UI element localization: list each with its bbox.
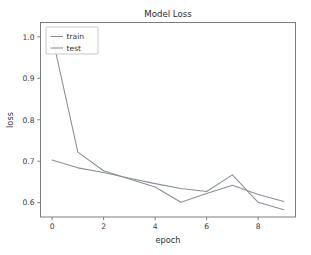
legend-label-train[interactable]: train	[67, 32, 85, 41]
matplotlib-figure: Model Loss loss epoch 02468 0.60.70.80.9…	[0, 0, 311, 255]
y-tick-label: 0.6	[22, 198, 34, 207]
x-tick-label: 2	[101, 222, 106, 231]
model-loss-line-chart: Model Loss loss epoch 02468 0.60.70.80.9…	[0, 0, 311, 255]
y-tick-label: 0.9	[22, 74, 34, 83]
y-tick-label: 1.0	[22, 33, 34, 42]
x-tick-label: 4	[153, 222, 158, 231]
x-axis-label: epoch	[156, 235, 181, 245]
x-tick-label: 0	[50, 222, 55, 231]
legend-label-test[interactable]: test	[67, 44, 82, 53]
chart-legend[interactable]: traintest	[46, 27, 98, 54]
x-tick-label: 8	[256, 222, 261, 231]
y-tick-label: 0.8	[22, 116, 34, 125]
x-tick-label: 6	[204, 222, 209, 231]
chart-title: Model Loss	[144, 9, 192, 19]
y-tick-label: 0.7	[22, 157, 34, 166]
y-axis-label: loss	[5, 112, 15, 128]
